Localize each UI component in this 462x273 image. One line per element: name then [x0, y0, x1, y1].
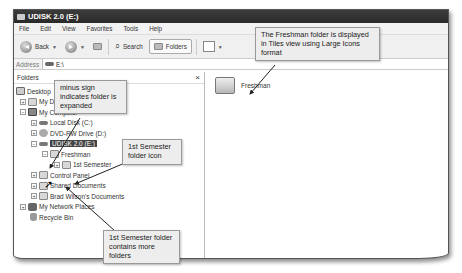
drive-icon	[45, 62, 54, 66]
folders-label: Folders	[166, 43, 187, 50]
tree-label: Desktop	[27, 88, 51, 95]
large-folder-icon	[215, 77, 235, 94]
tree-label: 1st Semester	[73, 161, 111, 168]
address-input[interactable]: E:\	[42, 59, 448, 69]
menu-edit[interactable]: Edit	[40, 25, 51, 32]
toolbar: Back ▼ ▼ ⌕ Search Folders ▼	[14, 35, 448, 59]
tree-label-selected: UDISK 2.0 (E:)	[50, 140, 97, 147]
tree-label: DVD-RW Drive (D:)	[50, 130, 106, 137]
usb-drive-icon	[39, 142, 48, 146]
expand-plus-icon[interactable]: +	[31, 120, 37, 126]
expand-plus-icon[interactable]: +	[31, 193, 37, 199]
tree-item-recycle-bin[interactable]: Recycle Bin	[14, 212, 204, 223]
tree-item-dvd-drive[interactable]: + DVD-RW Drive (D:)	[14, 128, 204, 139]
folders-pane-title: Folders	[17, 74, 39, 81]
views-button[interactable]: ▼	[201, 39, 225, 54]
tree-item-shared-documents[interactable]: + Shared Documents	[14, 181, 204, 192]
back-dropdown-icon[interactable]: ▼	[52, 44, 57, 50]
expand-plus-icon[interactable]: +	[31, 172, 37, 178]
my-documents-icon	[28, 98, 37, 106]
back-button[interactable]: Back ▼	[18, 39, 59, 55]
toolbar-separator	[108, 39, 109, 55]
collapse-minus-icon[interactable]: −	[31, 141, 37, 147]
address-label: Address	[16, 61, 39, 68]
desktop-icon	[16, 87, 25, 95]
collapse-minus-icon[interactable]: −	[20, 109, 26, 115]
explorer-window: UDISK 2.0 (E:) File Edit View Favorites …	[13, 9, 449, 259]
address-value: E:\	[56, 61, 64, 68]
callout-tiles-view: The Freshman folder is displayed in Tile…	[255, 27, 380, 61]
expand-plus-icon[interactable]: +	[20, 204, 26, 210]
title-bar: UDISK 2.0 (E:)	[14, 10, 448, 23]
content-item-label: Freshman	[241, 82, 270, 89]
computer-icon	[28, 108, 37, 116]
tree-label: Brad Wilson's Documents	[50, 193, 124, 200]
menu-tools[interactable]: Tools	[123, 25, 138, 32]
menu-file[interactable]: File	[19, 25, 29, 32]
close-icon[interactable]: ×	[195, 73, 200, 82]
callout-semester-contains: 1st Semester folder contains more folder…	[103, 230, 180, 264]
callout-semester-icon: 1st Semester folder icon	[122, 139, 182, 165]
tree-label: Local Disk (C:)	[50, 119, 93, 126]
drive-title-icon	[17, 14, 25, 20]
forward-button[interactable]: ▼	[63, 39, 87, 55]
window-title: UDISK 2.0 (E:)	[28, 12, 78, 21]
tree-item-control-panel[interactable]: + Control Panel	[14, 170, 204, 181]
disk-icon	[39, 121, 48, 125]
back-label: Back	[35, 43, 49, 50]
views-icon	[203, 41, 215, 52]
collapse-minus-icon[interactable]: −	[42, 151, 48, 157]
menu-favorites[interactable]: Favorites	[87, 25, 113, 32]
folder-icon	[39, 192, 48, 200]
folder-icon	[50, 150, 59, 158]
tree-label: My Network Places	[39, 203, 95, 210]
network-icon	[28, 203, 37, 211]
address-bar: Address E:\	[14, 59, 448, 70]
mouse-pointer-icon: ➚	[44, 178, 53, 191]
search-label: Search	[123, 43, 143, 50]
callout-minus-sign: minus sign indicates folder is expanded	[54, 80, 127, 114]
tree-item-local-disk[interactable]: + Local Disk (C:)	[14, 118, 204, 129]
search-icon: ⌕	[115, 41, 120, 52]
expand-plus-icon[interactable]: +	[54, 162, 60, 168]
content-pane: Freshman	[205, 72, 448, 258]
expand-plus-icon[interactable]: +	[20, 99, 26, 105]
search-button[interactable]: ⌕ Search	[113, 39, 145, 54]
expand-plus-icon[interactable]: +	[31, 183, 37, 189]
folders-icon	[154, 43, 163, 50]
up-folder-icon	[93, 43, 102, 50]
folder-icon	[62, 161, 71, 169]
menu-help[interactable]: Help	[149, 25, 162, 32]
menu-view[interactable]: View	[62, 25, 76, 32]
tree-item-my-network-places[interactable]: + My Network Places	[14, 202, 204, 213]
tree-item-brad-wilsons-documents[interactable]: + Brad Wilson's Documents	[14, 191, 204, 202]
forward-dropdown-icon[interactable]: ▼	[80, 44, 85, 50]
up-button[interactable]	[91, 41, 104, 52]
recycle-bin-icon	[30, 213, 37, 221]
tree-label: Recycle Bin	[39, 214, 73, 221]
back-arrow-icon	[20, 41, 32, 53]
dvd-icon	[39, 129, 48, 137]
expand-plus-icon[interactable]: +	[31, 130, 37, 136]
menu-bar: File Edit View Favorites Tools Help	[14, 23, 448, 35]
forward-arrow-icon	[65, 41, 77, 53]
tree-label: Freshman	[61, 151, 90, 158]
tree-label: Shared Documents	[50, 182, 106, 189]
folders-button[interactable]: Folders	[149, 39, 192, 54]
toolbar-separator	[196, 39, 197, 55]
views-dropdown-icon[interactable]: ▼	[218, 44, 223, 50]
tree-label: Control Panel	[50, 172, 89, 179]
